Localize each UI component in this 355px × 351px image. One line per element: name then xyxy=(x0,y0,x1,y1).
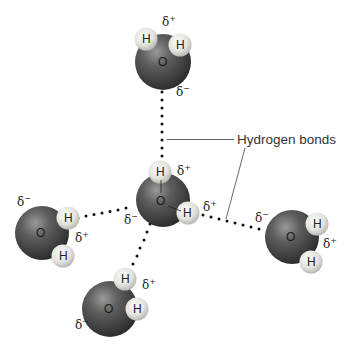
partial-positive-charge: δ+ xyxy=(142,277,156,292)
water-molecule-bottom: O H H δ+ δ− xyxy=(75,268,156,338)
partial-negative-charge: δ− xyxy=(176,84,190,99)
hydrogen-label: H xyxy=(142,32,151,46)
water-molecule-center: O H H δ+ δ+ δ− xyxy=(124,161,217,228)
hydrogen-label: H xyxy=(156,165,165,179)
hydrogen-label: H xyxy=(176,38,185,52)
water-molecule-top: O H H δ+ δ− xyxy=(135,14,192,99)
bond-center-right xyxy=(202,214,261,231)
hydrogen-bonds-label: Hydrogen bonds xyxy=(237,132,336,147)
hydrogen-label: H xyxy=(183,206,192,220)
partial-negative-charge: δ− xyxy=(17,194,31,209)
water-molecule-left: O H H δ− δ+ xyxy=(15,194,89,268)
partial-positive-charge: δ+ xyxy=(75,230,89,245)
partial-positive-charge: δ+ xyxy=(323,236,337,251)
hydrogen-label: H xyxy=(59,249,68,263)
partial-positive-charge: δ+ xyxy=(162,14,176,29)
oxygen-label: O xyxy=(36,226,45,240)
partial-negative-charge: δ− xyxy=(255,210,269,225)
oxygen-label: O xyxy=(158,55,167,69)
bond-center-bottom xyxy=(129,223,152,273)
oxygen-label: O xyxy=(286,230,295,244)
partial-positive-charge: δ+ xyxy=(177,163,191,178)
hydrogen-label: H xyxy=(64,211,73,225)
water-molecule-right: O H H δ− δ+ xyxy=(255,210,337,274)
oxygen-label: O xyxy=(104,302,113,316)
hydrogen-label: H xyxy=(307,255,316,269)
bond-top-center xyxy=(161,91,164,158)
hydrogen-label: H xyxy=(121,272,130,286)
partial-negative-charge: δ− xyxy=(124,212,138,227)
hydrogen-label: H xyxy=(133,302,142,316)
water-hydrogen-bond-diagram: Hydrogen bonds O H H δ+ δ− O H H δ+ δ+ δ… xyxy=(0,0,355,351)
partial-positive-charge: δ+ xyxy=(203,199,217,214)
partial-negative-charge: δ− xyxy=(75,317,89,332)
bond-left-center xyxy=(77,207,128,220)
oxygen-label: O xyxy=(156,194,165,208)
hydrogen-label: H xyxy=(313,217,322,231)
